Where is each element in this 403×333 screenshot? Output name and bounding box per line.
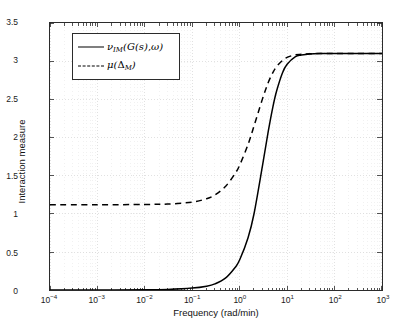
x-tick-label-2: 10−2: [136, 293, 153, 305]
legend-swatch-dashed-line: [78, 61, 104, 71]
legend-swatch-solid-line: [78, 42, 104, 52]
y-tick-label-1: 0.5: [0, 248, 18, 258]
x-axis-label: Frequency (rad/min): [49, 307, 383, 318]
x-tick-label-3: 10−1: [184, 293, 201, 305]
x-tick-label-1: 10−3: [88, 293, 105, 305]
y-tick-label-6: 3: [0, 55, 18, 65]
figure-canvas: 00.511.522.533.5 10−410−310−210−11001011…: [0, 0, 403, 333]
x-tick-label-4: 100: [233, 293, 246, 305]
x-tick-label-0: 10−4: [41, 293, 58, 305]
legend-label-nu-im: νIM(G(s),ω): [107, 41, 163, 54]
y-axis-label: Interaction measure: [16, 87, 27, 237]
series-line-1: [50, 54, 382, 291]
x-tick-label-5: 101: [281, 293, 294, 305]
legend: νIM(G(s),ω) μ(ΔM): [72, 33, 180, 80]
legend-item-nu-im: νIM(G(s),ω): [78, 39, 174, 56]
x-tick-label-6: 102: [329, 293, 342, 305]
y-tick-label-0: 0: [0, 286, 18, 296]
y-tick-label-7: 3.5: [0, 17, 18, 27]
x-tick-label-7: 103: [377, 293, 390, 305]
legend-item-mu-delta: μ(ΔM): [78, 57, 174, 74]
legend-label-mu-delta: μ(ΔM): [107, 59, 136, 72]
